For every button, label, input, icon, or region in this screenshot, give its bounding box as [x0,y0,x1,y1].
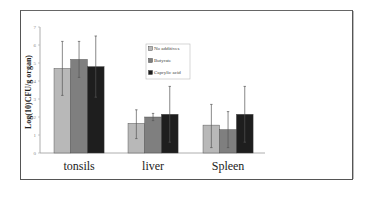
category-label: Spleen [212,159,245,173]
legend-swatch [149,47,153,51]
y-tick-label: 0 [34,151,37,156]
y-tick-label: 3 [34,97,37,102]
legend-label: No additives [154,46,179,51]
bar-liver-1 [145,117,162,153]
category-label: liver [142,159,164,173]
y-tick-label: 2 [34,115,37,120]
category-labels: tonsilsliverSpleen [63,159,244,173]
y-tick-label: 5 [34,61,37,66]
category-label: tonsils [63,159,95,173]
y-tick-label: 1 [34,133,37,138]
legend: No additivesButyrateCaprylic acid [146,44,190,79]
legend-label: Butyrate [154,58,172,63]
legend-swatch [149,59,153,63]
y-tick-label: 4 [34,79,37,84]
legend-label: Caprylic acid [154,70,181,75]
y-tick-label: 6 [34,43,37,48]
bar-chart: Log(10)CFU/g organ) 01234567 tonsilslive… [0,0,367,197]
y-axis-label: Log(10)CFU/g organ) [24,55,33,129]
legend-swatch [149,71,153,75]
y-tick-label: 7 [34,25,37,30]
